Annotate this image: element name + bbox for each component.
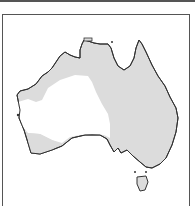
australia-map <box>0 0 195 206</box>
island-shark-bay <box>17 114 19 116</box>
island-melville <box>84 38 92 41</box>
island-king <box>134 171 136 173</box>
tasmania <box>137 176 148 191</box>
island-flinders <box>145 171 147 173</box>
island-north-east <box>111 41 113 43</box>
